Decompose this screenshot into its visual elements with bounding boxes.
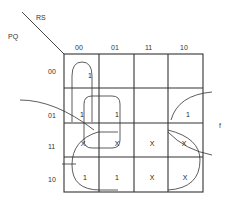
kmap-cell: X: [142, 174, 162, 181]
col-header: 10: [180, 44, 188, 51]
kmap-cell: 1: [107, 174, 127, 181]
col-header: 00: [75, 44, 83, 51]
kmap-cell: 1: [72, 111, 92, 118]
col-header: 11: [145, 44, 152, 51]
row-var-label: PQ: [8, 33, 18, 40]
kmap-cell: 1: [107, 111, 127, 118]
kmap-cell: X: [175, 174, 195, 181]
kmap-cell: X: [107, 140, 127, 147]
kmap-cell: X: [142, 140, 162, 147]
row-header: 00: [48, 68, 56, 75]
col-var-label: RS: [36, 14, 46, 21]
kmap-lines: [0, 0, 230, 203]
kmap-cell: X: [174, 140, 194, 147]
col-header: 01: [111, 44, 119, 51]
kmap-cell: 1: [80, 72, 100, 79]
row-header: 11: [48, 143, 55, 150]
kmap-cell: 1: [178, 111, 198, 118]
kmap-cell: X: [73, 140, 93, 147]
row-header: 01: [48, 112, 56, 119]
kmap-cell: 1: [75, 174, 95, 181]
output-label: f: [219, 122, 221, 129]
row-header: 10: [48, 176, 56, 183]
